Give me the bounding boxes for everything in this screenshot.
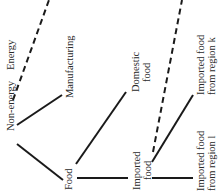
imported-region-l-line2: from region l	[206, 136, 217, 191]
node-imported-region-l: Imported food from region l	[195, 130, 217, 191]
energy-label: Energy	[5, 39, 16, 70]
node-imported-food: Imported food	[131, 151, 153, 190]
edge-nonenergy-energy-dashed	[13, 0, 49, 100]
imported-region-k-line1: Imported food	[195, 34, 206, 95]
node-non-energy: Non-energy	[5, 80, 16, 131]
edge-nonenergy-food	[17, 144, 63, 180]
nesting-tree-diagram: Energy Non-energy Manufacturing Food Dom…	[0, 0, 220, 191]
node-imported-region-k: Imported food from region k	[195, 34, 217, 95]
food-label: Food	[63, 168, 74, 190]
edge-food-domestic	[76, 92, 126, 164]
edge-nonenergy-manufacturing	[17, 95, 62, 125]
imported-food-label-line2: food	[142, 160, 153, 180]
node-domestic-food: Domestic food	[130, 51, 152, 92]
node-energy: Energy	[5, 39, 16, 70]
non-energy-label: Non-energy	[5, 80, 16, 131]
domestic-food-label-line2: food	[141, 62, 152, 82]
edge-imported-continuation-dashed	[153, 0, 182, 152]
imported-food-label-line1: Imported	[131, 151, 142, 190]
imported-region-k-line2: from region k	[206, 37, 217, 95]
manufacturing-label: Manufacturing	[64, 35, 75, 98]
imported-region-l-line1: Imported food	[195, 130, 206, 191]
domestic-food-label-line1: Domestic	[130, 51, 141, 92]
node-food: Food	[63, 168, 74, 190]
node-manufacturing: Manufacturing	[64, 35, 75, 98]
